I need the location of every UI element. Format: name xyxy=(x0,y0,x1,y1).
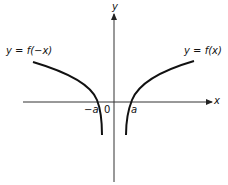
curve-f-of-x xyxy=(126,61,194,135)
x-axis-label: x xyxy=(214,96,220,106)
label-f-of-x: y = f(x) xyxy=(184,46,222,56)
curve-f-of-negative-x xyxy=(33,62,102,135)
label-f-of-negative-x: y = f(−x) xyxy=(6,46,52,56)
graph-canvas xyxy=(0,0,228,185)
origin-label: 0 xyxy=(104,105,110,115)
graph-figure: y = f(−x) y = f(x) y x −a 0 a xyxy=(0,0,228,185)
tick-label-pos-a: a xyxy=(131,105,137,115)
tick-label-neg-a: −a xyxy=(84,105,99,115)
y-axis-label: y xyxy=(112,2,118,12)
